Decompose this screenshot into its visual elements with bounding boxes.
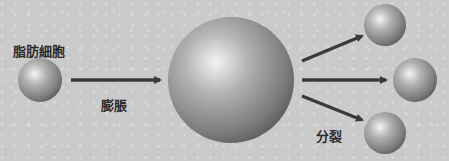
diagram-canvas (0, 0, 449, 161)
daughter-cell-bottom-sphere (364, 112, 406, 154)
fat-cell-label: 脂肪細胞 (13, 41, 65, 60)
fat-cell-diagram: 脂肪細胞 膨脹 分裂 (0, 0, 449, 161)
daughter-cell-middle-sphere (393, 58, 437, 102)
daughter-cell-top-sphere (364, 4, 406, 46)
expansion-label: 膨脹 (101, 95, 127, 114)
expanded-cell-sphere (168, 17, 294, 143)
division-arrow-bottom (302, 96, 362, 120)
fat-cell-sphere (18, 58, 62, 102)
division-arrow-top (302, 36, 362, 61)
division-label: 分裂 (316, 126, 342, 145)
